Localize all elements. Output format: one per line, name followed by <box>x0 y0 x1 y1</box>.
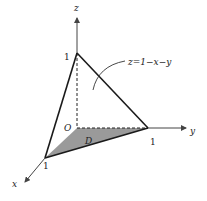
surface-equation: z=1−x−y <box>127 57 172 67</box>
x-tick-one: 1 <box>43 161 49 171</box>
z-axis-label: z <box>73 3 79 13</box>
origin-label: O <box>64 123 72 133</box>
region-label: D <box>84 136 92 146</box>
tetrahedron-diagram: z y x O 1 1 1 D z=1−x−y <box>0 0 207 201</box>
x-axis-label: x <box>12 179 17 189</box>
y-axis-label: y <box>189 126 196 136</box>
x-axis <box>25 158 45 182</box>
z-tick-one: 1 <box>64 52 70 62</box>
y-tick-one: 1 <box>150 137 156 147</box>
